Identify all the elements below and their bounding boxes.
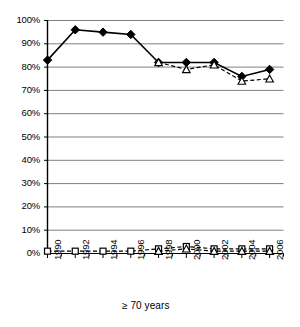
y-axis-tick-label: 0% <box>0 248 40 258</box>
data-point-marker <box>72 248 78 254</box>
data-point-marker <box>99 28 107 36</box>
x-axis-tick-label: 1996 <box>135 239 146 259</box>
y-axis-tick-label: 50% <box>0 132 40 142</box>
x-axis-title: ≥ 70 years <box>8 300 284 311</box>
data-point-marker <box>128 248 134 254</box>
y-axis-tick-label: 80% <box>0 62 40 72</box>
chart-container: 0%10%20%30%40%50%60%70%80%90%100% 199019… <box>0 0 300 327</box>
y-axis-tick-label: 60% <box>0 108 40 118</box>
chart-plot-area <box>0 0 300 327</box>
series-line <box>48 30 270 77</box>
x-axis-tick-label: 2000 <box>191 239 202 259</box>
y-axis-tick-label: 10% <box>0 225 40 235</box>
data-point-marker <box>100 248 106 254</box>
y-axis-tick-label: 30% <box>0 178 40 188</box>
y-axis-tick-label: 20% <box>0 201 40 211</box>
y-axis-tick-label: 90% <box>0 38 40 48</box>
x-axis-tick-label: 1994 <box>108 239 119 259</box>
data-point-marker <box>45 248 51 254</box>
x-axis-tick-label: 1992 <box>80 239 91 259</box>
chart-series-filled-diamond-solid <box>43 26 274 81</box>
x-axis-tick-label: 2004 <box>246 239 257 259</box>
y-axis-tick-label: 70% <box>0 85 40 95</box>
data-point-marker <box>265 65 273 73</box>
x-axis-tick-label: 1998 <box>163 239 174 259</box>
y-axis-tick-label: 40% <box>0 155 40 165</box>
y-axis-tick-label: 100% <box>0 15 40 25</box>
x-axis-tick-label: 1990 <box>52 239 63 259</box>
x-axis-tick-label: 2002 <box>219 239 230 259</box>
x-axis-tick-label: 2006 <box>274 239 285 259</box>
